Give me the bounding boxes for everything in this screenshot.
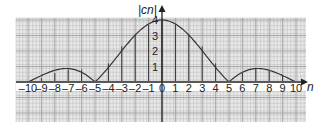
y-tick-label: 2 [152, 45, 158, 57]
x-tick-label: 8 [266, 82, 272, 94]
x-tick-label: 3 [199, 82, 205, 94]
x-tick-label: 10 [290, 82, 302, 94]
x-tick-label: –6 [75, 82, 87, 94]
x-tick-label: 1 [172, 82, 178, 94]
y-tick-label: 3 [152, 30, 158, 42]
x-tick-label: –5 [89, 82, 101, 94]
y-axis-label: |cn| [138, 3, 157, 17]
grid [16, 18, 306, 122]
x-tick-label: 0 [159, 82, 165, 94]
x-tick-label: 9 [280, 82, 286, 94]
x-tick-label: –1 [142, 82, 154, 94]
x-tick-label: 7 [253, 82, 259, 94]
x-tick-label: –7 [62, 82, 74, 94]
y-tick-label: 1 [152, 61, 158, 73]
spectrum-chart: –10–9–8–7–6–5–4–3–2–1012345678910 1234 |… [0, 0, 322, 130]
x-tick-label: –8 [49, 82, 61, 94]
x-tick-label: –3 [116, 82, 128, 94]
x-tick-label: 5 [226, 82, 232, 94]
x-tick-label: –4 [102, 82, 114, 94]
x-tick-label: –9 [35, 82, 47, 94]
x-tick-label: 4 [213, 82, 219, 94]
x-tick-label: 6 [239, 82, 245, 94]
x-tick-label: 2 [186, 82, 192, 94]
x-tick-label: –2 [129, 82, 141, 94]
x-axis-label: n [307, 80, 314, 94]
